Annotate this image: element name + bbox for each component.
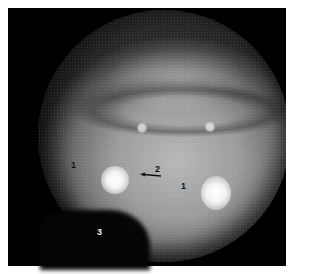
annotation-label-3: 3	[97, 228, 102, 237]
specular-highlight	[205, 122, 215, 132]
dark-lumen-region	[40, 210, 150, 270]
annotation-label-1-right: 1	[181, 182, 186, 191]
specular-highlight	[137, 123, 147, 133]
tissue-fold	[56, 82, 286, 162]
annotation-label-1-left: 1	[71, 161, 76, 170]
arrow-left-icon	[140, 172, 162, 178]
specular-highlight	[201, 176, 231, 210]
specular-highlight	[101, 166, 129, 194]
